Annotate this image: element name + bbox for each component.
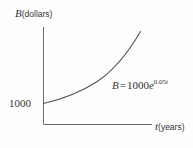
y-axis-variable: B [15, 7, 22, 19]
exponential-curve [44, 32, 141, 104]
equation-coefficient: 1000 [127, 79, 149, 91]
x-axis-label: t(years) [155, 121, 185, 132]
equation-equals-sign: = [119, 79, 127, 91]
equation-lhs: B [112, 79, 119, 91]
x-axis-unit: (years) [158, 122, 184, 132]
equation-exponent: 0.05t [154, 78, 168, 86]
exponent-coefficient: 0.05 [154, 78, 166, 86]
exponent-variable: t [166, 78, 168, 86]
y-intercept-tick-label: 1000 [9, 98, 31, 109]
curve-equation-annotation: B=1000e0.05t [112, 79, 168, 91]
y-axis-unit: (dollars) [22, 9, 53, 19]
exponential-growth-figure: B(dollars) t(years) 1000 B=1000e0.05t [0, 0, 193, 148]
y-axis-label: B(dollars) [15, 8, 52, 19]
